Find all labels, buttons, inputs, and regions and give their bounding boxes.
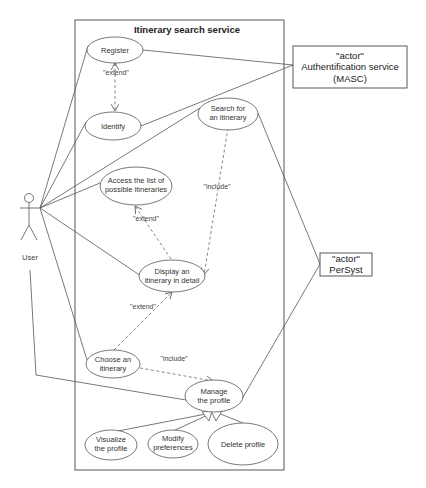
stick-figure-icon — [20, 194, 40, 241]
actor-persyst[interactable]: "actor" PerSyst — [320, 253, 372, 276]
svg-text:Choose an: Choose an — [95, 355, 131, 364]
svg-text:possible itineraries: possible itineraries — [105, 185, 167, 194]
use-case-identify[interactable]: Identify — [85, 112, 141, 140]
actor-user-label: User — [22, 253, 38, 262]
use-case-modify-preferences[interactable]: Modify preferences — [148, 430, 198, 458]
use-case-delete-profile[interactable]: Delete profile — [208, 423, 278, 465]
actor-auth-service[interactable]: "actor" Authentification service (MASC) — [293, 46, 407, 88]
svg-text:"actor": "actor" — [336, 50, 364, 61]
label-register-identify: "extend" — [103, 69, 130, 76]
svg-text:Display an: Display an — [154, 267, 189, 276]
svg-text:Access the list of: Access the list of — [108, 176, 165, 185]
svg-text:preferences: preferences — [153, 443, 193, 452]
svg-text:the profile: the profile — [198, 396, 231, 405]
use-case-choose-itinerary[interactable]: Choose an itinerary — [86, 350, 140, 378]
svg-text:Manage: Manage — [200, 387, 227, 396]
svg-text:Register: Register — [101, 46, 129, 55]
use-case-access-list[interactable]: Access the list of possible itineraries — [100, 167, 172, 205]
use-case-diagram: Itinerary search service "extend" — [0, 0, 426, 488]
use-case-visualize-profile[interactable]: Visualize the profile — [85, 430, 137, 460]
svg-text:Authentification service: Authentification service — [301, 61, 399, 72]
label-choose-manage: "include" — [160, 355, 188, 362]
use-case-display-itinerary[interactable]: Display an itinerary in detail — [139, 260, 205, 292]
svg-text:Modify: Modify — [162, 434, 184, 443]
svg-text:(MASC): (MASC) — [333, 73, 367, 84]
svg-text:the profile: the profile — [95, 444, 128, 453]
system-title: Itinerary search service — [134, 24, 240, 35]
svg-text:"actor": "actor" — [332, 253, 360, 264]
svg-text:itinerary: itinerary — [100, 364, 127, 373]
actor-user[interactable]: User — [20, 194, 40, 263]
svg-text:an itinerary: an itinerary — [209, 113, 246, 122]
svg-text:itinerary in detail: itinerary in detail — [145, 276, 200, 285]
use-case-register[interactable]: Register — [87, 37, 143, 63]
label-choose-display: "extend" — [130, 303, 157, 310]
use-case-manage-profile[interactable]: Manage the profile — [185, 380, 243, 412]
svg-text:PerSyst: PerSyst — [329, 264, 363, 275]
svg-text:Search for: Search for — [211, 104, 246, 113]
label-display-access: "extend" — [133, 215, 160, 222]
system-boundary — [75, 20, 284, 470]
label-search-display: "include" — [203, 183, 231, 190]
svg-text:Identify: Identify — [101, 122, 125, 131]
use-case-search-itinerary[interactable]: Search for an itinerary — [198, 98, 258, 130]
svg-text:Delete profile: Delete profile — [221, 440, 265, 449]
svg-text:Visualize: Visualize — [96, 435, 126, 444]
